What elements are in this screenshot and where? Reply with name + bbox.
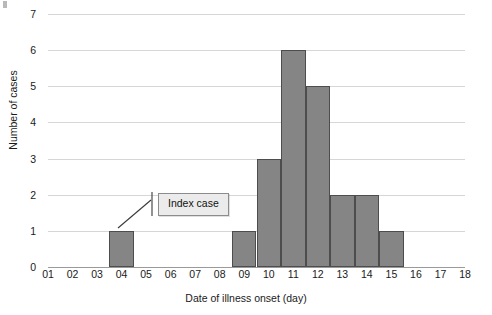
index-case-annotation: Index case xyxy=(158,193,229,216)
bar-day-13 xyxy=(330,195,355,267)
y-tick-7: 7 xyxy=(2,9,36,20)
bar-series xyxy=(48,14,465,267)
bar-day-15 xyxy=(379,231,404,267)
y-tick-6: 6 xyxy=(2,45,36,56)
y-tick-3: 3 xyxy=(2,154,36,165)
bar-day-12 xyxy=(306,86,331,267)
bar-day-14 xyxy=(355,195,380,267)
epidemic-curve-chart: Number of cases 01234567 Index case 0102… xyxy=(0,0,492,315)
plot-area xyxy=(48,14,465,267)
y-tick-2: 2 xyxy=(2,190,36,201)
x-axis-tick-labels: 010203040506070809101112131415161718 xyxy=(48,269,465,285)
gridline-0 xyxy=(48,267,465,268)
bar-day-09 xyxy=(232,231,257,267)
y-tick-4: 4 xyxy=(2,117,36,128)
x-tick-18: 18 xyxy=(450,269,480,280)
bar-day-04 xyxy=(109,231,134,267)
corner-mark xyxy=(3,1,7,8)
bar-day-10 xyxy=(257,159,282,267)
x-axis-title: Date of illness onset (day) xyxy=(0,292,492,304)
y-tick-1: 1 xyxy=(2,226,36,237)
bar-day-11 xyxy=(281,50,306,267)
y-axis-tick-labels: 01234567 xyxy=(0,14,44,267)
y-tick-5: 5 xyxy=(2,81,36,92)
y-tick-0: 0 xyxy=(2,262,36,273)
